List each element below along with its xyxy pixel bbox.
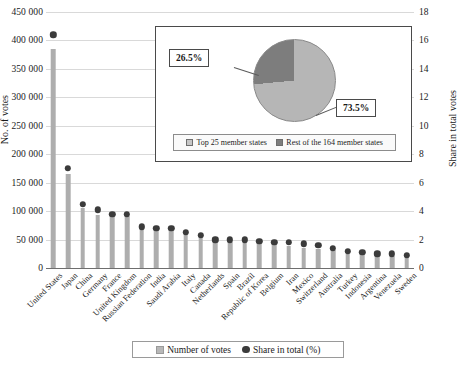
legend-item-votes: Number of votes (156, 345, 231, 355)
legend-label-share: Share in total (%) (253, 345, 320, 355)
y-tick-label: 200 000 (11, 149, 43, 159)
y2-tick-label: 0 (419, 263, 424, 273)
y-axis-right-ticks: 024681012141618 (419, 0, 447, 280)
data-point (300, 241, 306, 247)
bar (66, 174, 71, 268)
y-tick-label: 450 000 (11, 7, 43, 17)
legend-label-votes: Number of votes (167, 345, 231, 355)
bar (81, 208, 86, 268)
dot-swatch-icon (242, 346, 250, 354)
bar (139, 228, 144, 268)
bar (95, 215, 100, 268)
inset-legend-label-rest: Rest of the 164 member states (286, 138, 383, 147)
bar (110, 215, 115, 268)
y-tick-label: 400 000 (11, 35, 43, 45)
data-point (286, 239, 292, 245)
y2-tick-label: 6 (419, 178, 424, 188)
y2-tick-label: 16 (419, 35, 429, 45)
y-tick-label: 100 000 (11, 206, 43, 216)
y-tick-label: 0 (38, 263, 43, 273)
bar (169, 230, 174, 268)
bar (125, 216, 130, 268)
bar (316, 249, 321, 268)
bar (198, 236, 203, 268)
inset-pie-panel: 26.5% 73.5% Top 25 member states Rest of… (155, 26, 412, 162)
inset-legend-item-rest: Rest of the 164 member states (276, 138, 383, 147)
data-column (105, 12, 120, 268)
inset-legend-item-top25: Top 25 member states (186, 138, 267, 147)
y-tick-label: 150 000 (11, 178, 43, 188)
bar (242, 242, 247, 268)
legend-swatch-dark (276, 139, 283, 146)
pie-label-top25: 73.5% (336, 99, 376, 117)
x-axis-line (46, 268, 414, 269)
bar (360, 254, 365, 268)
bar (287, 246, 292, 268)
bar (390, 256, 395, 269)
bar (154, 230, 159, 268)
bar (272, 244, 277, 268)
inset-legend-label-top25: Top 25 member states (197, 138, 267, 147)
bar (213, 242, 218, 268)
chart-legend: Number of votes Share in total (%) (132, 341, 344, 358)
y-axis-right-title: Share in total votes (447, 90, 458, 167)
bar (257, 243, 262, 268)
data-point (80, 201, 86, 207)
y2-tick-label: 8 (419, 149, 424, 159)
y2-tick-label: 10 (419, 121, 429, 131)
data-column (46, 12, 61, 268)
y-tick-label: 250 000 (11, 121, 43, 131)
y2-tick-label: 18 (419, 7, 429, 17)
data-column (134, 12, 149, 268)
y2-tick-label: 12 (419, 92, 429, 102)
x-axis-category-labels: United StatesJapanChinaGermanyFranceUnit… (46, 271, 414, 341)
data-column (120, 12, 135, 268)
chart-figure: 050 000100 000150 000200 000250 000300 0… (0, 0, 475, 368)
y-tick-label: 350 000 (11, 64, 43, 74)
y-axis-left-title: No. of votes (0, 95, 10, 144)
bar (51, 49, 56, 268)
bar (228, 242, 233, 268)
inset-legend: Top 25 member states Rest of the 164 mem… (173, 134, 396, 151)
data-point (50, 32, 56, 38)
y2-tick-label: 2 (419, 235, 424, 245)
y2-tick-label: 4 (419, 206, 424, 216)
legend-item-share: Share in total (%) (242, 345, 320, 355)
bar (375, 256, 380, 269)
bar (331, 250, 336, 268)
pie-label-rest: 26.5% (169, 49, 209, 67)
bar (301, 248, 306, 268)
data-column (90, 12, 105, 268)
bar (345, 254, 350, 268)
y-tick-label: 50 000 (16, 235, 43, 245)
data-point (94, 207, 100, 213)
pie-chart (253, 39, 336, 122)
data-column (61, 12, 76, 268)
data-point (65, 165, 71, 171)
y-tick-label: 300 000 (11, 92, 43, 102)
y2-tick-label: 14 (419, 64, 429, 74)
bar (184, 234, 189, 268)
data-point (315, 242, 321, 248)
legend-swatch-light (186, 139, 193, 146)
data-column (75, 12, 90, 268)
bar-swatch-icon (156, 346, 164, 354)
